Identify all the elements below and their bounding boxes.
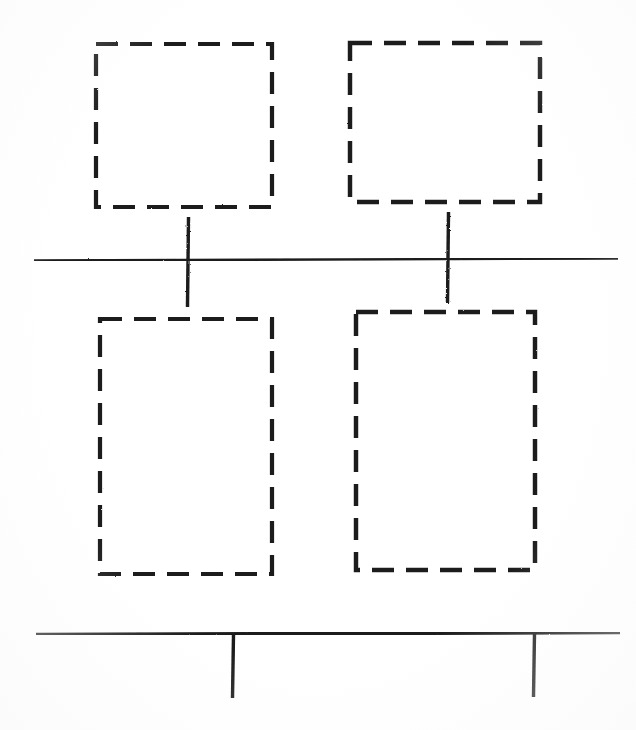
baseline-tick-left — [233, 634, 234, 698]
center-tick-right — [448, 212, 449, 303]
line-drawing-figure — [0, 0, 636, 730]
bottom-baseline — [36, 633, 620, 635]
bottom-baseline-group — [36, 633, 620, 635]
center-tick-left — [188, 217, 189, 307]
baseline-tick-right — [534, 633, 535, 697]
drawing-canvas — [0, 0, 636, 730]
